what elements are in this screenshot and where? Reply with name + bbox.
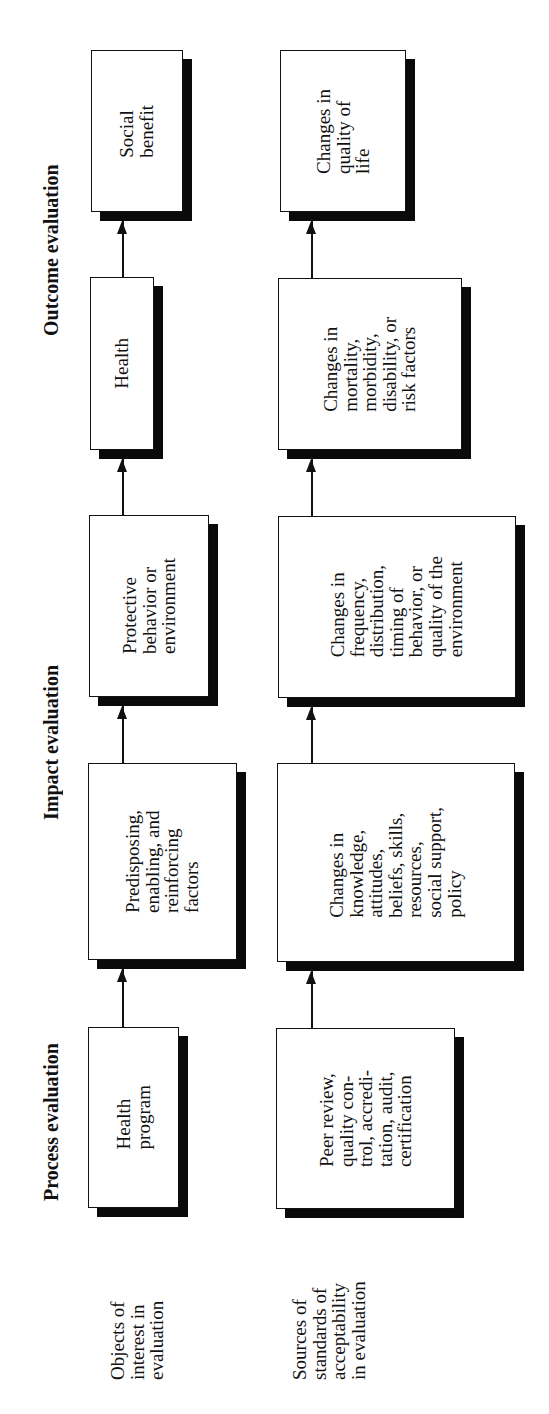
arrow-head-icon	[117, 459, 127, 472]
header-impact-evaluation: Impact evaluation	[40, 640, 63, 845]
arrow-head-icon	[117, 221, 127, 234]
box-text: Changes in frequency, distribution, timi…	[328, 556, 465, 657]
arrow-head-icon	[306, 459, 316, 472]
row-label-objects: Objects of interest in evaluation	[108, 1245, 167, 1380]
box-changes-mortality: Changes in mortality, morbidity, disabil…	[278, 278, 462, 450]
box-changes-frequency: Changes in frequency, distribution, timi…	[278, 516, 516, 698]
box-text: Changes in quality of life	[314, 89, 373, 174]
arrow-head-icon	[306, 707, 316, 720]
box-changes-quality-life: Changes in quality of life	[280, 50, 406, 212]
box-text: Changes in mortality, morbidity, disabil…	[321, 317, 419, 412]
box-text: Changes in knowledge, attitudes, beliefs…	[327, 807, 464, 918]
box-text: Health program	[114, 1085, 153, 1149]
box-health-program: Health program	[88, 1027, 179, 1208]
box-text: Predisposing, enabling, and reinforcing …	[123, 810, 201, 913]
box-protective-behavior: Protective behavior or environment	[89, 515, 209, 697]
arrow-head-icon	[306, 221, 316, 234]
box-text: Social benefit	[117, 105, 156, 158]
box-text: Peer review, quality con- trol, accredi-…	[317, 1070, 415, 1167]
row-label-sources: Sources of standards of acceptability in…	[290, 1245, 368, 1380]
box-predisposing-factors: Predisposing, enabling, and reinforcing …	[88, 763, 237, 960]
arrow-head-icon	[117, 706, 127, 719]
arrow-head-icon	[117, 969, 127, 982]
box-text: Protective behavior or environment	[120, 558, 179, 654]
box-changes-knowledge: Changes in knowledge, attitudes, beliefs…	[277, 763, 515, 962]
header-process-evaluation: Process evaluation	[40, 1018, 63, 1226]
arrow-head-icon	[306, 971, 316, 984]
header-outcome-evaluation: Outcome evaluation	[40, 138, 63, 362]
box-peer-review: Peer review, quality con- trol, accredi-…	[276, 1028, 455, 1209]
box-health: Health	[90, 277, 154, 450]
box-text: Health	[112, 338, 132, 389]
box-social-benefit: Social benefit	[91, 50, 183, 212]
